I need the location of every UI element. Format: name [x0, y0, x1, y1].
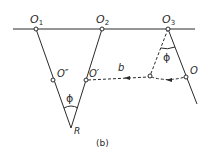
label-b: b: [118, 62, 124, 73]
point-o1: [34, 27, 38, 31]
pendulum-diagram: O1 O2 O3 O″ O′ O R b ϕ ϕ (b): [0, 0, 208, 154]
point-o-double-prime: [51, 78, 55, 82]
label-phi-left: ϕ: [66, 92, 73, 105]
arrow-b-icon: [124, 76, 130, 80]
label-o: O: [190, 65, 198, 76]
label-o1: O1: [30, 13, 43, 27]
label-o2: O2: [96, 13, 109, 27]
label-o-double-prime: O″: [57, 68, 69, 79]
arrow-arc-icon: [166, 78, 172, 82]
point-o-prime: [84, 78, 88, 82]
label-phi-right: ϕ: [163, 51, 170, 64]
dashed-arc-p-o: [151, 77, 185, 80]
point-o: [184, 75, 188, 79]
point-o2: [100, 27, 104, 31]
label-o-prime: O′: [89, 68, 100, 79]
angle-arc-right: [161, 47, 175, 49]
label-o3: O3: [162, 13, 175, 27]
label-r: R: [74, 126, 80, 136]
angle-arc-left: [64, 106, 78, 108]
figure-caption: (b): [96, 138, 109, 148]
point-o3: [166, 27, 170, 31]
point-p: [148, 74, 152, 78]
